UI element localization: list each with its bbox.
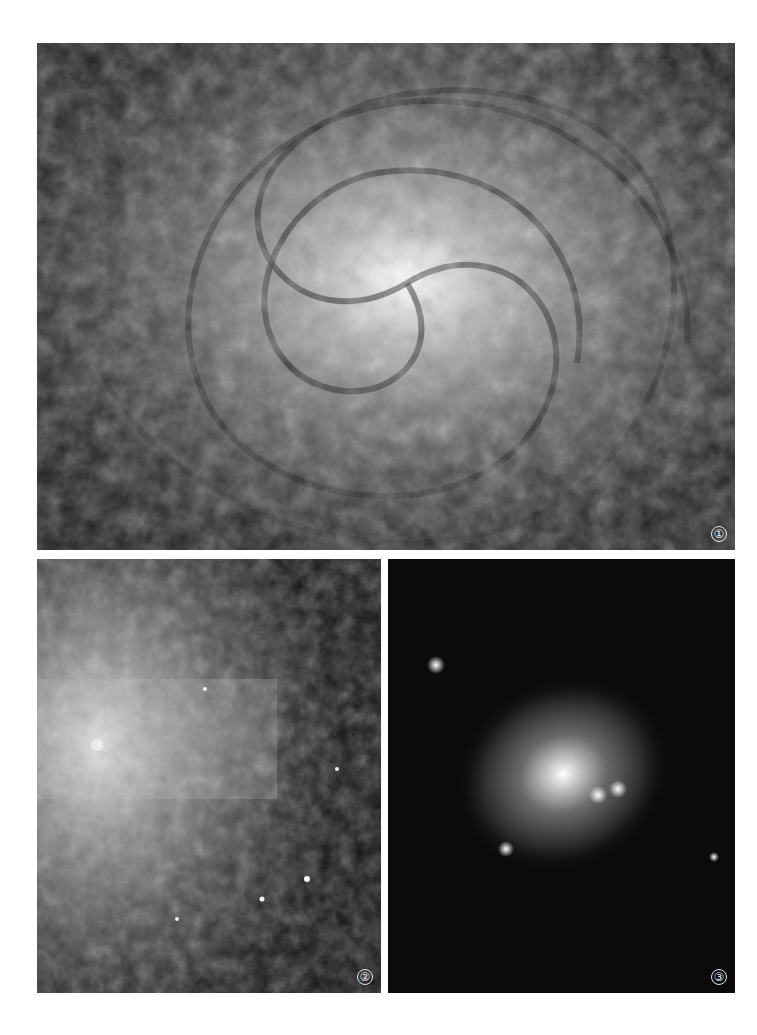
irregular-galaxy-image [37,559,381,993]
panel-spiral-galaxy: ① [37,43,735,550]
spiral-galaxy-image [37,43,735,550]
panel-number-1: ① [711,526,727,542]
panel-irregular-galaxy: ② [37,559,381,993]
panel-number-3: ③ [711,969,727,985]
elliptical-galaxy-image [388,559,735,993]
panel-elliptical-galaxy: ③ [388,559,735,993]
panel-number-2: ② [357,969,373,985]
